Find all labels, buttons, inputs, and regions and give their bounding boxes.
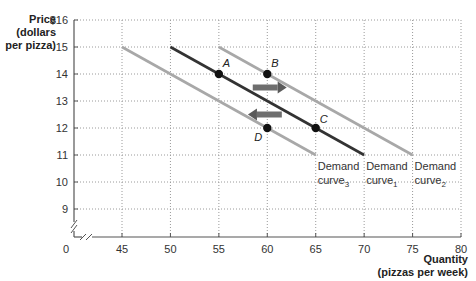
- shift-arrow-right-icon: [253, 85, 278, 91]
- demand-curve-label: Demand: [415, 160, 457, 172]
- x-tick-label: 70: [358, 243, 370, 255]
- y-tick-label: 13: [56, 95, 68, 107]
- point-d: [263, 124, 271, 132]
- point-label-d: D: [254, 131, 262, 143]
- point-label-c: C: [320, 113, 328, 125]
- point-label-b: B: [271, 57, 278, 69]
- demand-curve-sublabel: curve3: [318, 174, 350, 189]
- demand-curve-chart: $16151413121110904550556065707580Demandc…: [0, 0, 476, 281]
- x-tick-label: 80: [455, 243, 467, 255]
- demand-curve-sublabel: curve2: [415, 174, 447, 189]
- y-tick-label: 14: [56, 68, 68, 80]
- x-tick-label: 0: [63, 243, 69, 255]
- point-c: [312, 124, 320, 132]
- x-tick-label: 50: [164, 243, 176, 255]
- shift-arrow-left-icon: [257, 112, 282, 118]
- axis-break-icon: [86, 234, 92, 240]
- y-tick-label: 15: [56, 41, 68, 53]
- x-tick-label: 65: [310, 243, 322, 255]
- y-tick-label: 9: [62, 203, 68, 215]
- demand-curve-label: Demand: [366, 160, 408, 172]
- demand-curve-3: [122, 47, 316, 155]
- y-tick-label: 12: [56, 122, 68, 134]
- x-tick-label: 55: [213, 243, 225, 255]
- point-a: [215, 70, 223, 78]
- x-tick-label: 60: [261, 243, 273, 255]
- y-tick-label: 10: [56, 176, 68, 188]
- demand-curve-sublabel: curve1: [366, 174, 398, 189]
- point-label-a: A: [222, 57, 230, 69]
- y-tick-label: $16: [50, 14, 68, 26]
- x-tick-label: 45: [116, 243, 128, 255]
- point-b: [263, 70, 271, 78]
- x-tick-label: 75: [406, 243, 418, 255]
- demand-curve-label: Demand: [318, 160, 360, 172]
- y-tick-label: 11: [57, 149, 68, 161]
